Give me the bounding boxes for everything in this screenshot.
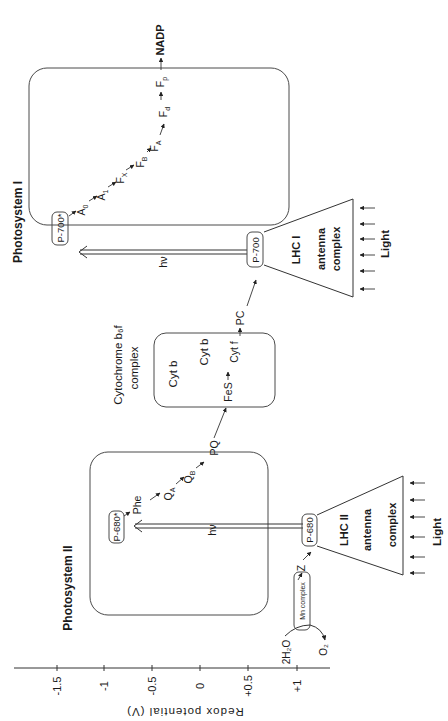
svg-text:Fd: Fd	[157, 107, 171, 117]
z-donor: Z	[295, 564, 307, 571]
psii-complex: complex	[386, 502, 398, 548]
p680-excited: P-680*	[111, 512, 122, 541]
cytb6f-title: Cytochrome b₆f	[112, 324, 124, 404]
psi-antenna: antenna	[315, 227, 327, 270]
psi-light: Light	[379, 230, 391, 258]
redox-axis: -1.5 -1 -0.5 0 +0.5 +1 Redox potential (…	[14, 665, 330, 718]
cyt-f: Cyt f	[228, 341, 240, 363]
axis-label: Redox potential (V)	[126, 706, 243, 718]
z-scheme-diagram: -1.5 -1 -0.5 0 +0.5 +1 Redox potential (…	[0, 0, 448, 721]
tick-label: -1.5	[51, 677, 63, 696]
water: 2H₂O	[281, 640, 292, 665]
nadp: NADP	[154, 24, 166, 55]
p700: P-700	[250, 237, 261, 262]
axis-tick-labels: -1.5 -1 -0.5 0 +0.5 +1	[51, 675, 303, 697]
svg-text:QB: QB	[182, 470, 196, 483]
psi-excitation-arrowhead	[79, 246, 87, 258]
psi-title: Photosystem I	[11, 181, 25, 263]
a0: A0	[75, 204, 89, 215]
tick-label: +1	[291, 680, 303, 693]
excitation-arrowhead	[134, 520, 142, 532]
psii-hv: hν	[206, 524, 218, 536]
plastocyanin: PC	[234, 310, 246, 325]
psi-lhc: LHC I	[290, 236, 302, 265]
svg-text:Fp: Fp	[154, 77, 169, 87]
fx: FX	[114, 172, 128, 183]
oxygen: O₂	[318, 644, 329, 656]
tick-label: -0.5	[146, 677, 158, 696]
svg-text:QA: QA	[162, 487, 176, 500]
psii-antenna: antenna	[361, 508, 373, 551]
pheophytin: Phe	[131, 496, 143, 515]
p700-excited: P-700*	[55, 213, 66, 242]
plastoquinone: PQ	[208, 440, 220, 455]
cytb6f-title-2: complex	[128, 346, 140, 389]
mn-complex: Mn complex	[299, 582, 307, 620]
svg-text:FX: FX	[114, 172, 128, 183]
psi-light-arrows	[360, 208, 375, 289]
pc-to-p700-arrow	[247, 280, 256, 306]
photosystem-i: Photosystem I P-700* hν P-700 LHC I ante…	[11, 24, 391, 297]
tick-label: -1	[98, 681, 110, 691]
fes: FeS	[222, 382, 234, 401]
tick-label: +0.5	[242, 675, 254, 697]
fa: FA	[148, 140, 162, 151]
fb: FB	[134, 156, 148, 167]
cytochrome-b6f: Cytochrome b₆f complex Cyt b Cyt b PQ Fe…	[112, 280, 275, 456]
psii-light-arrows	[410, 483, 425, 573]
tick-label: 0	[194, 683, 206, 689]
cyt-b-2: Cyt b	[198, 339, 210, 366]
fd: Fd	[157, 107, 171, 117]
water-splitting-arc	[285, 625, 325, 640]
psi-complex: complex	[330, 226, 342, 272]
photosystem-ii: Photosystem II P-680* hν P-680 LHC II an…	[61, 452, 443, 664]
cyt-b-1: Cyt b	[167, 361, 179, 388]
fp: Fp	[154, 77, 169, 87]
svg-text:FB: FB	[134, 156, 148, 167]
svg-text:A0: A0	[75, 204, 89, 215]
psii-light: Light	[431, 518, 443, 546]
svg-text:FA: FA	[148, 140, 162, 151]
p680: P-680	[304, 517, 315, 542]
qb: QB	[182, 470, 196, 483]
psii-title: Photosystem II	[61, 545, 75, 630]
qa: QA	[162, 487, 176, 500]
psii-lhc: LHC II	[338, 514, 350, 546]
a1: A1	[95, 189, 109, 200]
svg-text:A1: A1	[95, 189, 109, 200]
psi-hv: hν	[157, 256, 169, 268]
